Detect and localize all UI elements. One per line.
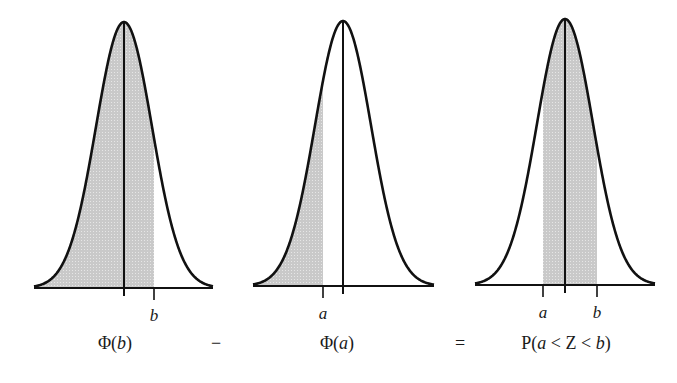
- caption-var: b: [596, 333, 605, 353]
- panel-phi-a: [253, 21, 434, 298]
- shaded-area: [38, 22, 154, 288]
- shaded-area: [543, 19, 597, 285]
- panel-prob-between: [475, 19, 655, 297]
- caption-text: Φ(: [98, 333, 117, 353]
- shaded-area: [257, 81, 323, 286]
- caption-var: b: [117, 333, 126, 353]
- normal-distribution-diagram: [0, 0, 677, 383]
- minus-operator: −: [211, 333, 221, 354]
- caption-prob-between: P(a < Z < b): [521, 333, 610, 354]
- tick-label-b: b: [593, 303, 602, 323]
- caption-text: ): [126, 333, 132, 353]
- caption-phi-b: Φ(b): [98, 333, 132, 354]
- caption-text: ): [348, 333, 354, 353]
- tick-label-b: b: [150, 306, 159, 326]
- equals-operator: =: [455, 333, 465, 354]
- caption-phi-a: Φ(a): [320, 333, 354, 354]
- tick-label-a: a: [539, 303, 548, 323]
- caption-text: < Z <: [546, 333, 595, 353]
- caption-text: P(: [521, 333, 537, 353]
- caption-text: Φ(: [320, 333, 339, 353]
- caption-var: a: [339, 333, 348, 353]
- panel-phi-b: [34, 22, 213, 300]
- caption-var: a: [537, 333, 546, 353]
- tick-label-a: a: [319, 304, 328, 324]
- caption-text: ): [605, 333, 611, 353]
